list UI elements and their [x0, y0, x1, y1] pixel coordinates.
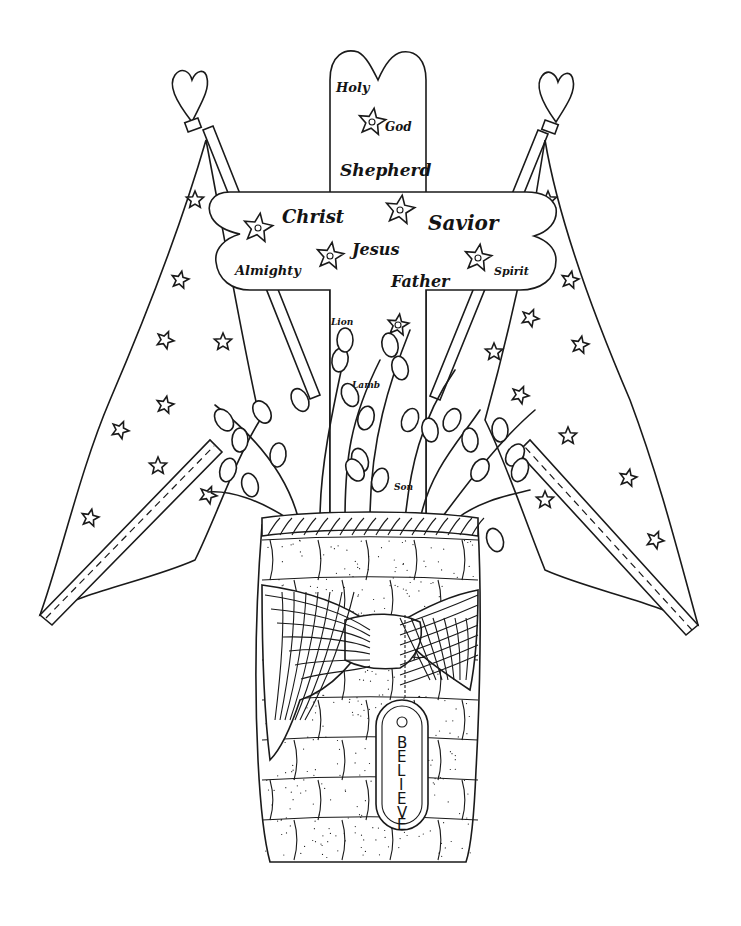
coloring-page-artwork: Holy God Shepherd Christ Savior Jesus Al… — [0, 0, 741, 926]
willow-bud — [269, 442, 287, 468]
word-spirit: Spirit — [494, 265, 529, 278]
word-lion: Lion — [330, 317, 353, 327]
word-christ: Christ — [282, 206, 345, 227]
willow-bud — [483, 526, 506, 554]
left-heart-icon — [172, 71, 207, 122]
willow-bud — [461, 427, 480, 453]
word-almighty: Almighty — [233, 263, 302, 278]
word-shepherd: Shepherd — [340, 160, 431, 180]
word-holy: Holy — [335, 80, 371, 95]
star-icon — [485, 343, 502, 359]
word-savior: Savior — [428, 211, 500, 235]
right-heart-icon — [539, 72, 574, 122]
tag-letter-e3: E — [397, 816, 406, 834]
willow-bud — [440, 406, 465, 435]
willow-bud — [232, 428, 249, 453]
willow-bud — [337, 328, 353, 352]
willow-bud — [491, 418, 508, 443]
word-father: Father — [390, 272, 451, 291]
word-jesus: Jesus — [349, 240, 399, 259]
word-god: God — [385, 120, 412, 134]
willow-bud — [239, 471, 261, 498]
